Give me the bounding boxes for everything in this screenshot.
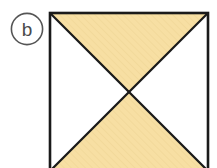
panel-label-text: b <box>22 19 33 40</box>
panel-label-b: b <box>10 12 44 46</box>
figure-panel: b <box>0 0 217 168</box>
square-with-diagonals-diagram <box>48 11 212 168</box>
diagram-svg <box>48 11 212 168</box>
